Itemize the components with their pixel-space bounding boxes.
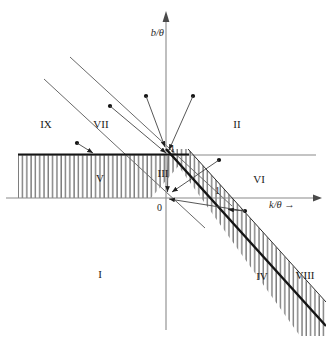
arrow-a <box>146 96 165 147</box>
y-axis-arrowhead <box>163 11 170 22</box>
x-axis-arrowhead <box>313 195 322 202</box>
arrow-c <box>110 106 166 153</box>
region-label-iii: III <box>158 167 169 179</box>
arrow-d <box>77 143 93 153</box>
x-tick-label-1: 1 <box>215 185 220 196</box>
region-label-v: V <box>96 172 104 184</box>
diagram-canvas: b/θ k/θ → 0 1 1 IX VII II V III VI I IV … <box>0 0 326 340</box>
figure-container: b/θ k/θ → 0 1 1 IX VII II V III VI I IV … <box>0 0 326 340</box>
region-label-viii: VIII <box>296 269 315 281</box>
region-label-vi: VI <box>253 173 265 185</box>
arrow-b <box>169 96 193 150</box>
bold-diagonal-main <box>166 149 326 326</box>
origin-label: 0 <box>157 202 162 213</box>
region-label-iv: IV <box>256 270 268 282</box>
y-axis-label: b/θ <box>151 27 164 38</box>
region-label-ix: IX <box>40 118 52 130</box>
region-label-ii: II <box>233 118 241 130</box>
region-label-vii: VII <box>93 118 109 130</box>
y-tick-label-1: 1 <box>170 143 175 154</box>
x-axis-label: k/θ → <box>269 199 295 210</box>
region-label-i: I <box>98 268 102 280</box>
